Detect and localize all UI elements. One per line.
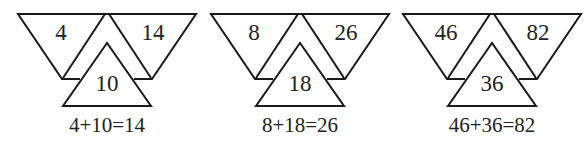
right-number: 26 bbox=[335, 20, 358, 45]
equation-label: 46+36=82 bbox=[449, 113, 536, 137]
left-number: 46 bbox=[435, 20, 458, 45]
left-number: 8 bbox=[248, 20, 260, 45]
left-triangle-inner-edge bbox=[256, 14, 298, 78]
center-number: 36 bbox=[481, 71, 504, 96]
equation-label: 4+10=14 bbox=[69, 113, 146, 137]
left-triangle-inner-edge bbox=[63, 14, 105, 78]
right-number: 14 bbox=[142, 20, 166, 45]
center-number: 10 bbox=[96, 71, 119, 96]
equation-label: 8+18=26 bbox=[262, 113, 338, 137]
left-number: 4 bbox=[55, 20, 67, 45]
right-number: 82 bbox=[527, 20, 550, 45]
center-number: 18 bbox=[289, 71, 312, 96]
triangle-puzzle-figure: 414104+10=14826188+18=2646823646+36=82 bbox=[0, 0, 587, 142]
